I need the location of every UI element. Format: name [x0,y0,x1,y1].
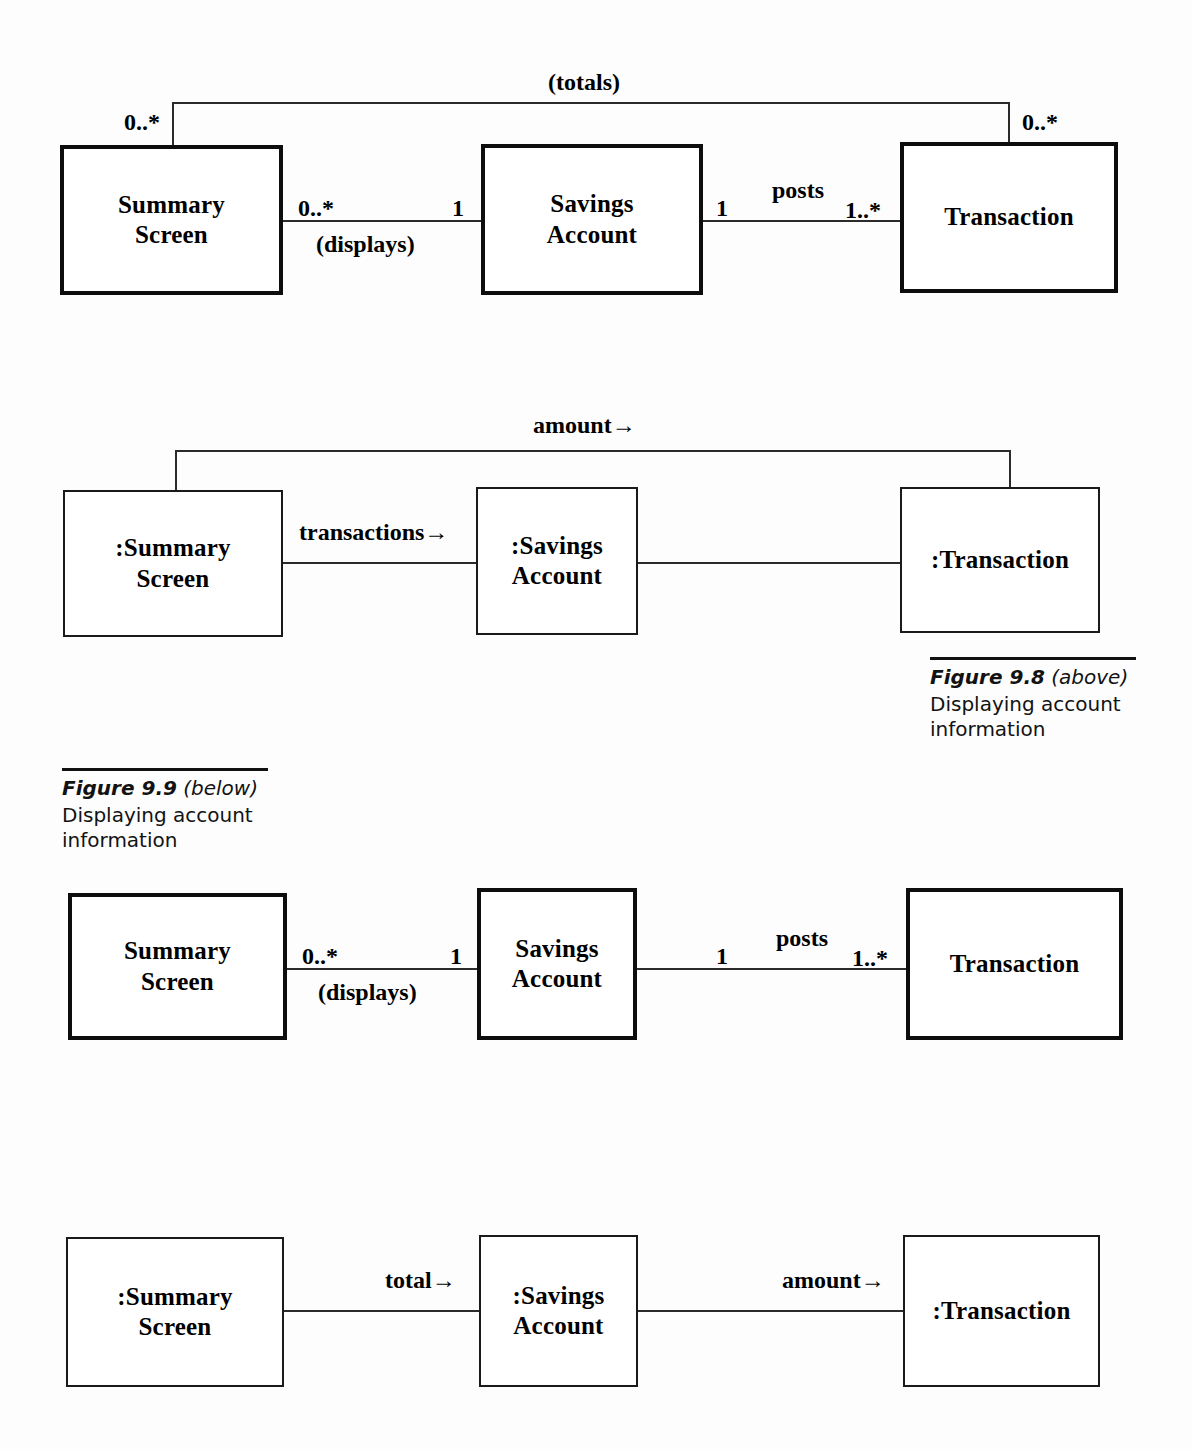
object-box-transaction[interactable]: :Transaction [903,1235,1100,1387]
caption-figure-position: (below) [177,776,258,800]
totals-association-label: (totals) [548,70,620,94]
object-box-summary-screen[interactable]: :Summary Screen [66,1237,284,1387]
class-box-summary-screen[interactable]: Summary Screen [60,145,283,295]
displays-target-multiplicity: 1 [450,944,462,968]
posts-source-multiplicity: 1 [716,944,728,968]
posts-target-multiplicity: 1..* [852,946,888,970]
diagram-class-totals: (totals) 0..* 0..* 0..* 1 (displays) 1 p… [0,0,1192,330]
caption-rule [62,768,268,771]
caption-figure-number: Figure 9.8 [930,665,1045,689]
figure-9-8-caption: Figure 9.8 (above) Displaying account in… [930,657,1160,743]
displays-association-label: (displays) [318,980,417,1004]
posts-association-label: posts [776,926,828,950]
class-box-label: Savings Account [512,934,602,995]
class-box-savings-account[interactable]: Savings Account [481,144,703,295]
object-box-label: :Transaction [931,545,1069,576]
displays-target-multiplicity: 1 [452,196,464,220]
object-box-label: :Summary Screen [117,1282,232,1343]
class-box-transaction[interactable]: Transaction [900,142,1118,293]
figure-9-9-caption: Figure 9.9 (below) Displaying account in… [62,768,292,854]
class-box-label: Transaction [944,202,1074,233]
object-box-savings-account[interactable]: :Savings Account [479,1235,638,1387]
class-box-transaction[interactable]: Transaction [906,888,1123,1040]
class-box-label: Summary Screen [124,936,231,997]
class-box-label: Summary Screen [118,190,225,251]
object-box-summary-screen[interactable]: :Summary Screen [63,490,283,637]
amount-link-label: amount→ [782,1268,885,1292]
posts-association-label: posts [772,178,824,202]
amount-link-horizontal-line [175,450,1011,452]
totals-association-horizontal-line [172,102,1010,104]
object-box-label: :Transaction [932,1296,1070,1327]
posts-source-multiplicity: 1 [716,196,728,220]
object-box-label: :Savings Account [511,531,603,592]
class-box-summary-screen[interactable]: Summary Screen [68,893,287,1040]
diagram-class-displays-posts: 0..* 1 (displays) 1 posts 1..* Summary S… [0,860,1192,1080]
caption-figure-position: (above) [1045,665,1128,689]
displays-source-multiplicity: 0..* [298,196,334,220]
transactions-link-label: transactions→ [299,520,448,544]
amount-link-right-leg [1009,450,1011,488]
amount-link-label: amount→ [533,413,636,437]
totals-association-right-leg [1008,102,1010,145]
amount-link-left-leg [175,450,177,490]
object-box-label: :Savings Account [513,1281,605,1342]
caption-figure-body: Displaying account information [62,803,292,854]
class-box-savings-account[interactable]: Savings Account [477,888,637,1040]
page-canvas: (totals) 0..* 0..* 0..* 1 (displays) 1 p… [0,0,1192,1449]
total-link-line [284,1310,479,1312]
caption-figure-number: Figure 9.9 [62,776,177,800]
diagram-object-total-amount: total→ amount→ :Summary Screen :Savings … [0,1220,1192,1420]
displays-association-label: (displays) [316,232,415,256]
posts-target-multiplicity: 1..* [845,198,881,222]
savings-transaction-link-line [637,562,901,564]
totals-target-multiplicity: 0..* [1022,110,1058,134]
transactions-link-line [283,562,476,564]
class-box-label: Savings Account [547,189,637,250]
amount-link-line [638,1310,903,1312]
object-box-savings-account[interactable]: :Savings Account [476,487,638,635]
totals-association-left-leg [172,102,174,147]
caption-figure-body: Displaying account information [930,692,1160,743]
totals-source-multiplicity: 0..* [124,110,160,134]
object-box-label: :Summary Screen [115,533,230,594]
total-link-label: total→ [385,1268,456,1292]
object-box-transaction[interactable]: :Transaction [900,487,1100,633]
displays-source-multiplicity: 0..* [302,944,338,968]
class-box-label: Transaction [950,949,1080,980]
caption-rule [930,657,1136,660]
